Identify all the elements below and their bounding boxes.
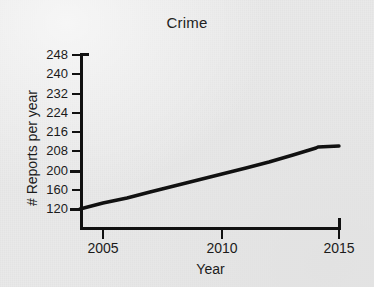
plot-area: 248240232224216208200160120 200520102015… bbox=[0, 0, 374, 287]
crime-trend-line bbox=[80, 146, 339, 209]
chart-figure: Crime 248240232224216208200160120 200520… bbox=[0, 0, 374, 287]
x-axis-title: Year bbox=[80, 261, 341, 277]
y-axis-title: # Reports per year bbox=[24, 68, 40, 228]
data-series-layer bbox=[0, 0, 374, 287]
